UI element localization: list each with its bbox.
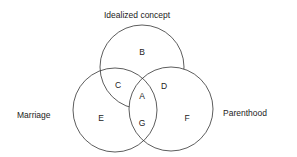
region-label-c: C	[115, 80, 121, 90]
region-label-g: G	[139, 118, 146, 128]
venn-diagram: Idealized concept Marriage Parenthood B …	[0, 0, 297, 157]
region-label-d: D	[161, 81, 167, 91]
set-label-parenthood: Parenthood	[223, 108, 267, 118]
set-circle-parenthood	[129, 67, 213, 151]
region-label-b: B	[139, 47, 145, 57]
set-label-marriage: Marriage	[17, 110, 51, 120]
set-label-idealized-concept: Idealized concept	[104, 10, 171, 20]
region-label-a: A	[139, 91, 145, 101]
region-label-f: F	[184, 113, 189, 123]
region-label-e: E	[98, 113, 104, 123]
